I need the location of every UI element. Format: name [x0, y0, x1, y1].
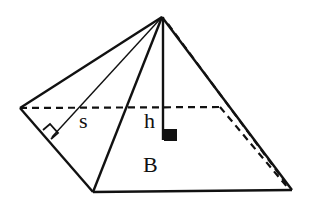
base-edge-front	[93, 190, 292, 192]
height-right-angle-marker-icon	[164, 129, 177, 141]
lateral-edge-right	[162, 17, 292, 190]
pyramid-diagram: s h B	[0, 0, 311, 211]
hidden-base-edge-right	[220, 107, 288, 188]
label-height: h	[144, 108, 155, 133]
label-slant-height: s	[79, 108, 88, 133]
hidden-base-edge-back	[20, 107, 220, 108]
label-base: B	[143, 152, 158, 177]
